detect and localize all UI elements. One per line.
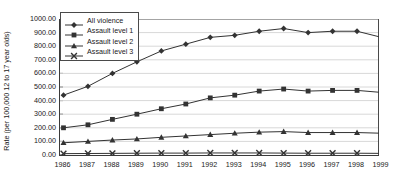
y-axis-tick-labels: 0.00100.00200.00300.00400.00500.00600.00… <box>14 0 58 182</box>
x-axis-tick-labels: 1986198719881989199019911992199319941995… <box>0 160 413 174</box>
series-4 <box>61 150 379 155</box>
y-axis-tick-label: 100.00 <box>34 137 56 145</box>
series-3 <box>61 129 380 145</box>
data-point-x-marker <box>110 150 116 155</box>
legend-square-icon <box>64 26 84 36</box>
data-point-diamond-marker <box>85 83 91 89</box>
data-point-square-marker <box>208 95 213 100</box>
x-axis-tick-label: 1992 <box>201 160 217 170</box>
legend-item[interactable]: Assault level 2 <box>64 37 133 47</box>
series-2 <box>61 87 379 131</box>
x-axis-tick-label: 1993 <box>226 160 242 170</box>
y-axis-tick-label: 900.00 <box>34 29 56 37</box>
legend-item-label: All violence <box>87 16 123 26</box>
data-point-square-marker <box>306 89 311 94</box>
x-axis-tick-label: 1988 <box>103 160 119 170</box>
data-point-diamond-marker <box>158 48 164 54</box>
data-point-square-marker <box>110 117 115 122</box>
legend-item-label: Assault level 3 <box>87 47 133 57</box>
data-point-diamond-marker <box>110 71 116 77</box>
data-point-diamond-marker <box>256 28 262 34</box>
x-axis-tick-label: 1987 <box>79 160 95 170</box>
y-axis-tick-label: 300.00 <box>34 110 56 118</box>
y-axis-tick-label: 800.00 <box>34 42 56 50</box>
data-point-diamond-marker <box>232 32 238 38</box>
data-point-x-marker <box>354 150 360 155</box>
data-point-square-marker <box>281 87 286 92</box>
data-point-diamond-marker <box>305 30 311 36</box>
y-axis-tick-label: 700.00 <box>34 56 56 64</box>
legend-triangle-icon <box>64 37 84 47</box>
y-axis-title: Rate (per 100,000 12 to 17 year olds) <box>0 0 14 182</box>
y-axis-tick-label: 1000.00 <box>30 15 56 23</box>
data-point-square-marker <box>355 88 360 93</box>
legend-item[interactable]: Assault level 1 <box>64 26 133 36</box>
data-point-x-marker <box>330 150 336 155</box>
data-point-x-marker <box>85 151 91 155</box>
x-axis-tick-label: 1999 <box>373 160 389 170</box>
x-axis-tick-label: 1991 <box>177 160 193 170</box>
x-axis-tick-label: 1994 <box>250 160 266 170</box>
data-point-diamond-marker <box>354 28 360 34</box>
data-point-square-marker <box>134 112 139 117</box>
x-axis-tick-label: 1995 <box>275 160 291 170</box>
y-axis-tick-label: 200.00 <box>34 124 56 132</box>
x-axis-tick-label: 1997 <box>324 160 340 170</box>
series-line <box>64 89 380 128</box>
data-point-square-marker <box>330 88 335 93</box>
x-axis-tick-label: 1996 <box>299 160 315 170</box>
y-axis-tick-label: 400.00 <box>34 97 56 105</box>
data-point-square-marker <box>86 122 91 127</box>
data-point-square-marker <box>232 93 237 98</box>
x-axis-tick-label: 1998 <box>348 160 364 170</box>
y-axis-tick-label: 0.00 <box>42 151 56 159</box>
data-point-diamond-marker <box>330 28 336 34</box>
x-axis-tick-label: 1986 <box>55 160 71 170</box>
data-point-diamond-marker <box>207 34 213 40</box>
chart-legend: All violenceAssault level 1Assault level… <box>60 12 139 61</box>
x-axis-tick-label: 1989 <box>128 160 144 170</box>
data-point-square-marker <box>61 125 66 130</box>
data-point-x-marker <box>134 150 140 155</box>
data-point-square-marker <box>183 102 188 107</box>
legend-x-icon <box>64 47 84 57</box>
data-point-square-marker <box>159 106 164 111</box>
legend-item-label: Assault level 2 <box>87 37 133 47</box>
legend-item[interactable]: All violence <box>64 16 133 26</box>
y-axis-tick-label: 500.00 <box>34 83 56 91</box>
legend-item[interactable]: Assault level 3 <box>64 47 133 57</box>
data-point-x-marker <box>305 150 311 155</box>
data-point-diamond-marker <box>61 92 67 98</box>
data-point-diamond-marker <box>281 26 287 32</box>
x-axis-tick-label: 1990 <box>152 160 168 170</box>
data-point-square-marker <box>257 89 262 94</box>
line-chart: Rate (per 100,000 12 to 17 year olds) 0.… <box>0 0 413 182</box>
data-point-x-marker <box>61 151 67 155</box>
y-axis-tick-label: 600.00 <box>34 69 56 77</box>
legend-item-label: Assault level 1 <box>87 26 133 36</box>
legend-diamond-icon <box>64 16 84 26</box>
